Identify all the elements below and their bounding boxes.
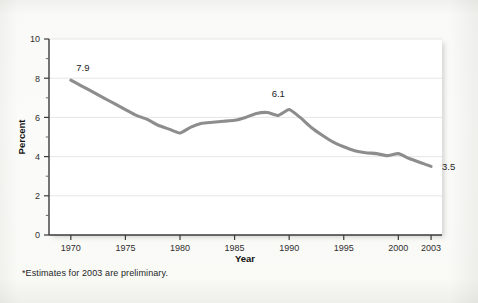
svg-text:0: 0 <box>35 230 40 240</box>
data-series-line <box>71 80 431 166</box>
svg-text:4: 4 <box>35 152 40 162</box>
svg-text:2000: 2000 <box>388 243 408 253</box>
x-axis-title: Year <box>235 253 255 264</box>
svg-text:8: 8 <box>35 74 40 84</box>
y-axis-ticks <box>44 39 49 235</box>
svg-text:6.1: 6.1 <box>272 88 285 99</box>
svg-text:1975: 1975 <box>115 243 135 253</box>
svg-text:1990: 1990 <box>279 243 299 253</box>
line-chart: 0246810 19701975198019851990199520002003… <box>0 0 478 303</box>
y-axis-title: Percent <box>16 119 27 155</box>
svg-text:6: 6 <box>35 113 40 123</box>
svg-text:1970: 1970 <box>61 243 81 253</box>
footnote-text: *Estimates for 2003 are preliminary. <box>22 268 168 278</box>
y-axis-tick-labels: 0246810 <box>30 34 40 240</box>
svg-text:2: 2 <box>35 191 40 201</box>
axis-lines <box>49 39 442 235</box>
svg-text:1980: 1980 <box>170 243 190 253</box>
svg-text:1995: 1995 <box>334 243 354 253</box>
chart-figure: 0246810 19701975198019851990199520002003… <box>0 0 478 303</box>
svg-text:1985: 1985 <box>225 243 245 253</box>
svg-text:2003: 2003 <box>421 243 441 253</box>
svg-text:10: 10 <box>30 34 40 44</box>
x-axis-tick-labels: 19701975198019851990199520002003 <box>61 243 441 253</box>
svg-text:3.5: 3.5 <box>442 161 455 172</box>
svg-text:7.9: 7.9 <box>76 62 89 73</box>
